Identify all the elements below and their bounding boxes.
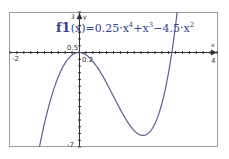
y-max-label: 3 [71,13,75,20]
y-axis-arrow-icon [77,13,83,19]
exponent: 2 [190,21,194,29]
formula-part: −4.5·x [153,22,189,35]
function-formula: f1(x)=0.25·x4+x3−4.5·x2 [56,20,194,35]
x-axis-arrow-icon [211,50,217,56]
x-min-label: -2 [12,55,19,63]
y-min-label: -7 [67,141,74,149]
y-tick-label: 0.5 [67,44,78,52]
x-tick-label: 0.2 [82,56,93,64]
x-axis-label: x [211,41,215,48]
function-name: f1 [56,20,71,35]
x-max-label: 4 [211,57,216,65]
formula-part: +x [133,22,148,35]
formula-part: (x)=0.25·x [71,22,129,35]
